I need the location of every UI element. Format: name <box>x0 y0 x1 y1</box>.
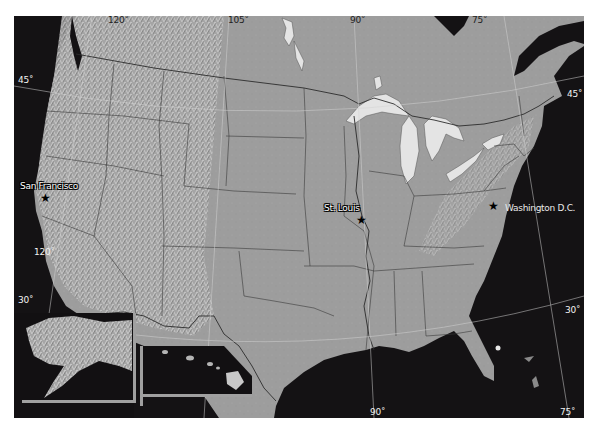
longitude-label-75-bottom: 75˚ <box>560 408 575 417</box>
city-label-san-francisco[interactable]: San Francisco <box>20 182 78 191</box>
star-icon-san-francisco[interactable]: ★ <box>40 192 51 204</box>
city-label-washington-dc[interactable]: Washington D.C. <box>505 204 575 213</box>
longitude-label-90-bottom: 90˚ <box>370 408 385 417</box>
latitude-label-45-left: 45˚ <box>18 76 33 85</box>
star-icon-washington-dc[interactable]: ★ <box>488 200 499 212</box>
city-label-st-louis[interactable]: St. Louis <box>324 204 360 213</box>
star-icon-st-louis[interactable]: ★ <box>356 214 367 226</box>
alaska-inset <box>14 313 136 418</box>
longitude-label-120-top: 120˚ <box>108 16 129 25</box>
map-canvas <box>14 16 584 418</box>
longitude-label-120-bottom: 120˚ <box>34 248 55 257</box>
latitude-label-30-right: 30˚ <box>565 306 580 315</box>
longitude-label-105-top: 105˚ <box>228 16 249 25</box>
longitude-label-90-top: 90˚ <box>350 16 365 25</box>
latitude-label-30-left: 30˚ <box>18 296 33 305</box>
longitude-label-75-top: 75˚ <box>472 16 487 25</box>
latitude-label-45-right: 45˚ <box>567 90 582 99</box>
map-frame[interactable]: 120˚ 105˚ 90˚ 75˚ 45˚ 45˚ 30˚ 30˚ 120˚ 9… <box>14 16 584 418</box>
